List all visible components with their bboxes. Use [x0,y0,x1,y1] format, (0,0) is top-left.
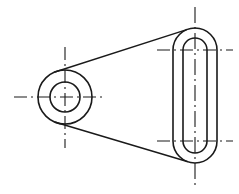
part-outline-drawing [0,0,239,194]
technical-drawing-canvas [0,0,239,194]
